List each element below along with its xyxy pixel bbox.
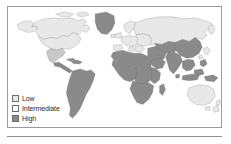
region-scandinavia (124, 21, 136, 34)
region-australia (187, 85, 215, 106)
region-southern-africa (130, 81, 154, 105)
bottom-divider-rule (7, 136, 222, 137)
region-japan-south (198, 55, 203, 59)
region-balkans (135, 45, 145, 52)
world-map-panel: Low Intermediate High (7, 6, 222, 128)
region-greenland (95, 12, 115, 35)
region-madagascar (160, 84, 166, 96)
legend-label-high: High (22, 115, 36, 123)
legend-item-high: High (12, 114, 78, 123)
region-central-africa (135, 67, 154, 85)
region-canada-arctic-islands-2 (77, 12, 89, 17)
region-new-zealand-north (216, 99, 220, 105)
region-iberia (113, 44, 123, 51)
region-arabia (152, 58, 166, 69)
region-philippines (200, 59, 207, 67)
region-new-guinea (204, 75, 218, 82)
region-sri-lanka (175, 74, 179, 78)
region-india (166, 52, 183, 74)
region-alaska (17, 21, 38, 33)
region-mexico (47, 48, 66, 63)
map-legend: Low Intermediate High (12, 94, 78, 124)
region-southeast-asia (182, 59, 195, 71)
figure-root: Low Intermediate High (0, 0, 231, 144)
region-new-zealand-south (213, 105, 219, 112)
region-east-africa (151, 67, 161, 84)
legend-label-intermediate: Intermediate (22, 105, 60, 113)
legend-item-low: Low (12, 94, 78, 103)
legend-swatch-icon-intermediate (12, 105, 19, 112)
legend-swatch-icon-high (12, 115, 19, 122)
region-canada (32, 18, 90, 40)
region-canada-arctic-islands (56, 12, 74, 17)
region-western-europe (121, 36, 140, 47)
legend-swatch-icon-low (12, 95, 19, 102)
region-japan (203, 46, 210, 55)
region-kamchatka (208, 25, 215, 35)
region-ireland (111, 34, 115, 37)
region-italy (129, 46, 135, 53)
region-central-america (54, 62, 73, 73)
legend-label-low: Low (22, 95, 35, 103)
region-tasmania (205, 106, 210, 110)
legend-item-intermediate: Intermediate (12, 104, 78, 113)
